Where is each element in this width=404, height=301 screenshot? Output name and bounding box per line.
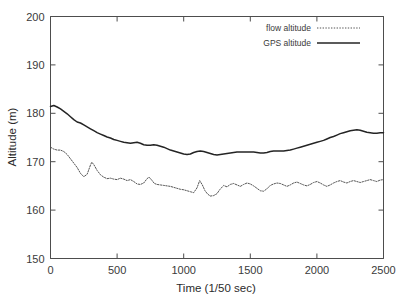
x-tick-label-1500: 1500 [238,264,262,276]
tick-marks [51,17,384,259]
y-tick-label-200: 200 [26,11,44,23]
data-series [51,106,384,197]
y-axis-title: Altitude (m) [6,107,18,166]
x-tick-label-1000: 1000 [171,264,195,276]
x-tick-label-0: 0 [47,264,53,276]
x-tick-label-2500: 2500 [371,264,395,276]
figure-container: 05001000150020002500150160170180190200 A… [0,0,404,301]
legend-label-flow-altitude: flow altitude [266,23,311,33]
plot-frame [51,17,384,259]
y-tick-label-180: 180 [26,107,44,119]
tick-labels: 05001000150020002500150160170180190200 [26,11,396,276]
axes [51,17,384,259]
series-line-gps-altitude [51,106,384,155]
y-tick-label-160: 160 [26,204,44,216]
y-tick-label-190: 190 [26,59,44,71]
y-tick-label-170: 170 [26,156,44,168]
y-tick-label-150: 150 [26,253,44,265]
legend: flow altitude GPS altitude [263,23,360,48]
altitude-line-chart: 05001000150020002500150160170180190200 A… [0,0,404,301]
legend-label-gps-altitude: GPS altitude [263,38,311,48]
x-tick-label-2000: 2000 [305,264,329,276]
x-axis-title: Time (1/50 sec) [176,282,256,294]
x-tick-label-500: 500 [108,264,126,276]
